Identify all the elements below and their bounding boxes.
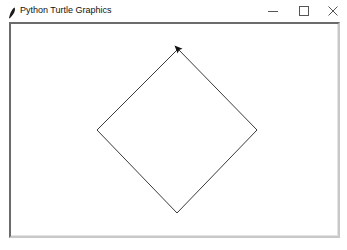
close-icon (328, 6, 338, 16)
canvas-area (11, 24, 338, 236)
minimize-icon (268, 6, 278, 16)
maximize-icon (299, 6, 309, 16)
minimize-button[interactable] (258, 0, 288, 22)
close-button[interactable] (318, 0, 347, 22)
feather-icon (7, 5, 17, 17)
maximize-button[interactable] (289, 0, 319, 22)
window-title: Python Turtle Graphics (20, 5, 112, 16)
turtle-window: Python Turtle Graphics (0, 0, 347, 240)
turtle-canvas[interactable] (9, 22, 340, 238)
title-bar[interactable]: Python Turtle Graphics (0, 0, 347, 22)
